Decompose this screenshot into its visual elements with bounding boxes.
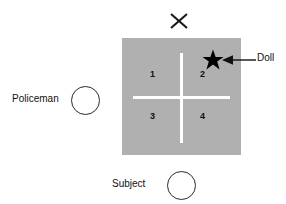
arrow-left-icon	[222, 52, 256, 68]
policeman-circle-icon	[71, 86, 100, 115]
doll-label: Doll	[257, 53, 274, 63]
quadrant-label-3: 3	[150, 112, 155, 121]
star-icon	[202, 49, 224, 71]
quadrant-label-1: 1	[150, 70, 155, 79]
subject-label: Subject	[112, 179, 145, 189]
quadrant-label-4: 4	[200, 112, 205, 121]
subject-circle-icon	[167, 171, 196, 200]
x-marker-icon	[168, 10, 190, 32]
diagram-canvas: 1 2 3 4 Doll Policeman Subject	[0, 0, 286, 204]
cross-horizontal-divider	[133, 96, 230, 99]
policeman-label: Policeman	[12, 94, 59, 104]
quadrant-label-2: 2	[200, 70, 205, 79]
